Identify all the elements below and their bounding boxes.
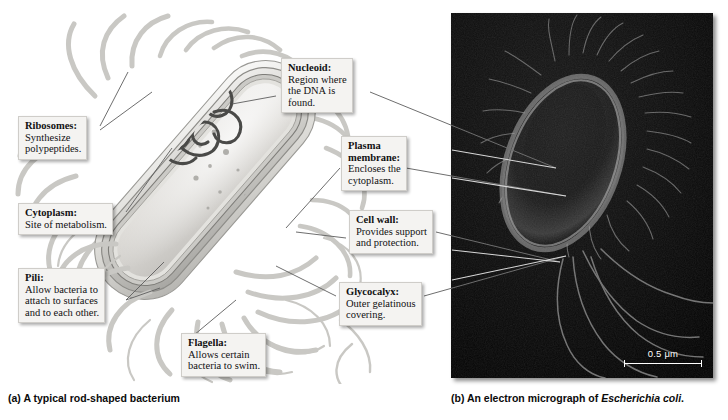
label-plasma-membrane-line1: Encloses the	[348, 163, 401, 175]
label-cell-wall-line1: Provides support	[356, 226, 427, 238]
caption-a-prefix: (a)	[8, 392, 21, 404]
label-pili-headword: Pili:	[25, 272, 99, 284]
caption-b-prefix: (b)	[451, 392, 464, 404]
caption-b-period: .	[681, 392, 684, 404]
caption-b-text: An electron micrograph of	[467, 392, 598, 404]
scale-bar: 0.5 μm	[624, 348, 702, 367]
label-pili-line1: Allow bacteria to	[25, 284, 99, 296]
label-pili: Pili: Allow bacteria to attach to surfac…	[18, 268, 105, 323]
label-plasma-membrane-headword2: membrane:	[348, 152, 401, 164]
label-cytoplasm: Cytoplasm: Site of metabolism.	[18, 203, 113, 235]
label-flagella-line2: bacteria to swim.	[188, 360, 260, 372]
electron-micrograph-panel: 0.5 μm	[451, 13, 713, 378]
scale-bar-label: 0.5 μm	[624, 348, 702, 359]
label-flagella: Flagella: Allows certain bacteria to swi…	[181, 333, 266, 377]
caption-b-species: Escherichia coli	[601, 392, 681, 404]
label-cell-wall: Cell wall: Provides support and protecti…	[349, 210, 433, 254]
label-nucleoid-headword: Nucleoid:	[288, 62, 347, 74]
label-ribosomes-line2: polypeptides.	[25, 143, 81, 155]
bacterium-drawing	[0, 0, 440, 384]
label-glycocalyx: Glycocalyx: Outer gelatinous covering.	[339, 282, 422, 326]
label-pili-line2: attach to surfaces	[25, 295, 99, 307]
label-nucleoid-line3: found.	[288, 97, 347, 109]
caption-panel-a: (a) A typical rod-shaped bacterium	[8, 392, 180, 404]
label-flagella-headword: Flagella:	[188, 337, 260, 349]
label-cell-wall-line2: and protection.	[356, 237, 427, 249]
label-plasma-membrane-headword: Plasma	[348, 140, 401, 152]
scale-bar-rule	[624, 360, 702, 367]
label-cytoplasm-headword: Cytoplasm:	[25, 207, 107, 219]
label-cytoplasm-line1: Site of metabolism.	[25, 219, 107, 231]
label-ribosomes: Ribosomes: Synthesize polypeptides.	[18, 116, 87, 160]
label-glycocalyx-line2: covering.	[346, 309, 416, 321]
label-ribosomes-headword: Ribosomes:	[25, 120, 81, 132]
label-plasma-membrane: Plasma membrane: Encloses the cytoplasm.	[341, 136, 407, 191]
label-nucleoid-line1: Region where	[288, 74, 347, 86]
label-pili-line3: and to each other.	[25, 307, 99, 319]
caption-panel-b: (b) An electron micrograph of Escherichi…	[451, 392, 684, 404]
label-glycocalyx-headword: Glycocalyx:	[346, 286, 416, 298]
ecoli-micrograph	[451, 13, 713, 378]
label-cell-wall-headword: Cell wall:	[356, 214, 427, 226]
bacterium-illustration-panel	[0, 0, 440, 384]
textbook-figure: Ribosomes: Synthesize polypeptides. Cyto…	[0, 0, 728, 420]
label-nucleoid: Nucleoid: Region where the DNA is found.	[281, 58, 353, 113]
caption-a-text: A typical rod-shaped bacterium	[23, 392, 180, 404]
label-glycocalyx-line1: Outer gelatinous	[346, 298, 416, 310]
label-nucleoid-line2: the DNA is	[288, 85, 347, 97]
label-ribosomes-line1: Synthesize	[25, 132, 81, 144]
label-flagella-line1: Allows certain	[188, 349, 260, 361]
label-plasma-membrane-line2: cytoplasm.	[348, 175, 401, 187]
